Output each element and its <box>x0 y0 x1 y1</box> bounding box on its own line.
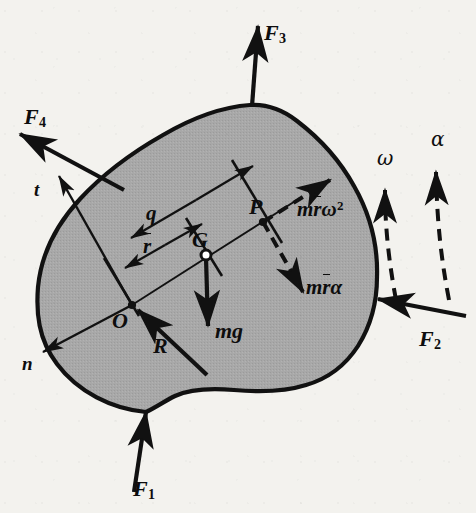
label-reaction-R: R <box>153 335 168 357</box>
label-point-O: O <box>112 310 128 332</box>
diagram-canvas <box>0 0 476 513</box>
angular-acceleration-arc <box>436 172 449 300</box>
label-angular-acceleration: α <box>431 129 445 149</box>
label-force-F4: F4 <box>24 106 46 129</box>
force-arrow-F2 <box>378 299 466 316</box>
point-marker-P <box>259 218 267 226</box>
label-normal-inertia-force: mrω2 <box>297 199 343 220</box>
free-body-diagram-figure: F3 F4 F2 F1 t n q r O G P R mg mrω2 mrα … <box>0 0 476 513</box>
label-axis-t: t <box>34 180 39 199</box>
label-force-F1: F1 <box>133 478 155 501</box>
point-marker-O <box>128 301 136 309</box>
force-arrow-F3 <box>252 26 258 106</box>
label-point-G: G <box>192 229 208 251</box>
label-dimension-q: q <box>146 203 157 224</box>
label-point-P: P <box>249 196 262 218</box>
angular-velocity-arc <box>385 190 396 300</box>
label-tangential-inertia-force: mrα <box>306 277 342 298</box>
force-arrow-mg <box>206 258 208 326</box>
label-dimension-r-bar: r <box>143 236 151 257</box>
label-force-F3: F3 <box>264 22 286 45</box>
label-weight-mg: mg <box>215 320 243 342</box>
label-angular-velocity: ω <box>377 148 393 168</box>
label-force-F2: F2 <box>419 328 441 351</box>
label-axis-n: n <box>22 354 33 373</box>
